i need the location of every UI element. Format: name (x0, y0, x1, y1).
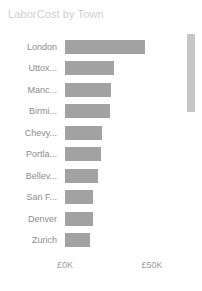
page-title: LaborCost by Town (8, 7, 104, 21)
x-axis-tick-label: £0K (57, 258, 73, 272)
bar[interactable] (65, 233, 90, 247)
category-label[interactable]: Zurich (0, 235, 57, 246)
category-label[interactable]: Denver (0, 213, 57, 224)
category-label[interactable]: Birmi... (0, 106, 57, 117)
category-label[interactable]: Chevy... (0, 127, 57, 138)
vertical-scrollbar[interactable] (187, 34, 195, 256)
chart-row: London (0, 36, 202, 58)
bar[interactable] (65, 40, 145, 54)
chart-row: Chevy... (0, 122, 202, 144)
bar[interactable] (65, 61, 114, 75)
plot-area: LondonUttox...Manc...Birmi...Chevy...Por… (0, 36, 202, 256)
chart-row: Denver (0, 208, 202, 230)
chart-row: Manc... (0, 79, 202, 101)
bar[interactable] (65, 169, 98, 183)
chart-row: Bellev... (0, 165, 202, 187)
bar[interactable] (65, 147, 101, 161)
chart-row: Zurich (0, 230, 202, 252)
bar[interactable] (65, 212, 93, 226)
bar[interactable] (65, 190, 93, 204)
category-label[interactable]: Bellev... (0, 170, 57, 181)
category-label[interactable]: San F... (0, 192, 57, 203)
chart-row: San F... (0, 187, 202, 209)
bar[interactable] (65, 83, 111, 97)
chart-row: Portla... (0, 144, 202, 166)
bar[interactable] (65, 126, 102, 140)
scrollbar-thumb[interactable] (187, 34, 195, 112)
x-axis: £0K£50K (0, 258, 202, 274)
category-label[interactable]: Uttox... (0, 63, 57, 74)
chart-row: Uttox... (0, 58, 202, 80)
chart-row: Birmi... (0, 101, 202, 123)
x-axis-tick-label: £50K (141, 258, 162, 272)
category-label[interactable]: Portla... (0, 149, 57, 160)
category-label[interactable]: Manc... (0, 84, 57, 95)
bar[interactable] (65, 104, 110, 118)
category-label[interactable]: London (0, 41, 57, 52)
bar-chart-visual: LaborCost by Town LondonUttox...Manc...B… (0, 0, 202, 291)
